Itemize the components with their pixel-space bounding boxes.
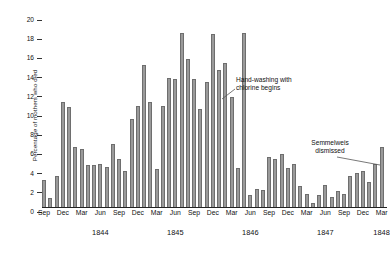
x-year-label: 1847 (317, 228, 333, 237)
bar (130, 119, 134, 207)
x-tick-label: Dec (282, 209, 294, 216)
x-tick-label: Jun (170, 209, 181, 216)
bar (173, 79, 177, 207)
x-year-label: 1845 (167, 228, 183, 237)
annotation-dismissed-line2: dismissed (311, 147, 348, 155)
bar (186, 59, 190, 207)
bar (361, 171, 365, 207)
bar (55, 176, 59, 207)
bar (305, 194, 309, 207)
bar (323, 185, 327, 207)
bar (67, 107, 71, 207)
x-tick-label: Sep (338, 209, 350, 216)
y-tick-label: 4 (30, 169, 34, 179)
y-tick-label: 18 (27, 34, 34, 44)
y-tick-label: 2 (30, 188, 34, 198)
bar (167, 78, 171, 207)
bar (211, 34, 215, 207)
bar (105, 167, 109, 207)
x-tick-label: Sep (113, 209, 125, 216)
bar (80, 149, 84, 207)
bar (98, 164, 102, 207)
y-tick-label: 14 (27, 73, 34, 83)
bar (217, 70, 221, 207)
x-year-label: 1848 (373, 228, 389, 237)
y-tick-label: 16 (27, 53, 34, 63)
x-tick-label: Mar (301, 209, 313, 216)
y-axis: 02468101214161820 (14, 15, 42, 207)
y-tick-label: 6 (30, 149, 34, 159)
bar (355, 173, 359, 207)
bar (42, 180, 46, 207)
bar (117, 159, 121, 207)
bar (255, 189, 259, 207)
bar (348, 176, 352, 207)
x-axis: SepDecMarJunSepDecMarJunSepDecMarJunSepD… (42, 209, 387, 225)
bar (380, 147, 384, 207)
bar (317, 195, 321, 207)
bar (192, 79, 196, 207)
x-axis-line (42, 207, 387, 208)
annotation-handwashing-line1: Hand-washing with (236, 76, 292, 84)
x-tick-label: Mar (226, 209, 238, 216)
x-tick-label: Dec (357, 209, 369, 216)
bar (205, 82, 209, 207)
bar (223, 63, 227, 207)
x-tick-label: Jun (245, 209, 256, 216)
bar (236, 168, 240, 207)
x-tick-label: Mar (376, 209, 388, 216)
x-year-label: 1844 (92, 228, 108, 237)
bar (242, 33, 246, 207)
bar (373, 164, 377, 207)
x-tick-label: Jun (95, 209, 106, 216)
x-year-label: 1846 (242, 228, 258, 237)
bar (123, 171, 127, 207)
bar (161, 106, 165, 207)
y-tick-label: 0 (30, 207, 34, 217)
x-tick-label: Sep (263, 209, 275, 216)
x-tick-label: Mar (76, 209, 88, 216)
x-tick-label: Dec (207, 209, 219, 216)
annotation-dismissed: Semmelweis dismissed (311, 139, 348, 156)
bar (61, 102, 65, 207)
bar (273, 159, 277, 207)
plot-area (42, 15, 386, 207)
bar (155, 169, 159, 207)
bar (92, 165, 96, 207)
x-tick-label: Sep (38, 209, 50, 216)
bar (367, 182, 371, 207)
bar (142, 65, 146, 207)
y-tick-label: 12 (27, 92, 34, 102)
bar (86, 165, 90, 207)
bar (136, 106, 140, 207)
x-tick-label: Dec (132, 209, 144, 216)
bar (148, 102, 152, 207)
y-tick-label: 8 (30, 130, 34, 140)
x-tick-label: Dec (57, 209, 69, 216)
annotation-dismissed-line1: Semmelweis (311, 139, 348, 147)
x-tick-label: Jun (320, 209, 331, 216)
bar (198, 109, 202, 207)
annotation-handwashing-line2: chlorine begins (236, 84, 292, 92)
annotation-handwashing: Hand-washing with chlorine begins (236, 76, 292, 93)
bar (261, 190, 265, 207)
x-tick-label: Sep (188, 209, 200, 216)
bar (342, 194, 346, 207)
bar (292, 164, 296, 207)
bar (230, 97, 234, 207)
bar (286, 168, 290, 207)
x-tick-label: Mar (151, 209, 163, 216)
bar (267, 157, 271, 207)
y-tick-label: 10 (27, 111, 34, 121)
bar (111, 144, 115, 207)
bar (248, 195, 252, 207)
y-tick-label: 20 (27, 15, 34, 25)
bar (298, 186, 302, 207)
bar (280, 154, 284, 207)
bar (180, 33, 184, 207)
bar (336, 191, 340, 207)
x-axis-years: 18441845184618471848 (42, 228, 387, 244)
bar (73, 147, 77, 207)
